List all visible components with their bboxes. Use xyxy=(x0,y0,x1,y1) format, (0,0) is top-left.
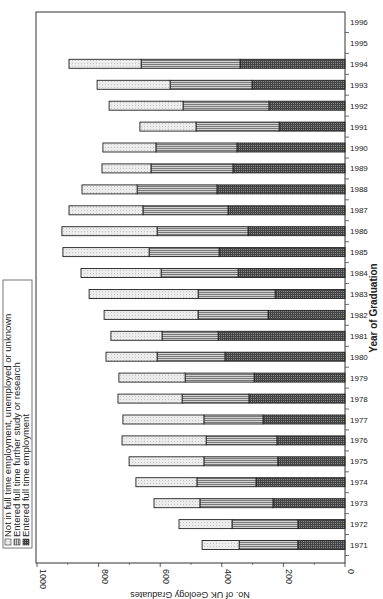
bar-segment-further-study-1994 xyxy=(141,59,240,68)
legend-swatch-not-employed xyxy=(5,539,11,545)
value-tick-label-1000: 1000 xyxy=(38,569,48,589)
year-label-1990: 1990 xyxy=(350,144,368,153)
bar-segment-further-study-1976 xyxy=(206,436,277,445)
legend-swatch-further-study xyxy=(14,539,20,545)
year-label-1984: 1984 xyxy=(350,269,368,278)
value-tick-label-800: 800 xyxy=(100,569,110,584)
bar-segment-employed-1992 xyxy=(269,101,345,110)
bar-segment-further-study-1990 xyxy=(156,143,237,152)
year-label-1986: 1986 xyxy=(350,227,368,236)
value-axis: 02004006008001000 xyxy=(37,563,356,589)
year-label-1995: 1995 xyxy=(350,39,368,48)
value-tick-label-200: 200 xyxy=(284,569,294,584)
bar-segment-employed-1974 xyxy=(256,478,345,487)
bar-segment-further-study-1972 xyxy=(232,520,298,529)
year-label-1971: 1971 xyxy=(350,541,368,550)
bar-segment-employed-1971 xyxy=(298,541,345,550)
bars-group xyxy=(62,59,345,549)
year-label-1989: 1989 xyxy=(350,164,368,173)
bar-segment-further-study-1977 xyxy=(204,415,263,424)
bar-segment-not-employed-1977 xyxy=(123,415,204,424)
bar-segment-not-employed-1984 xyxy=(81,269,161,278)
bar-segment-further-study-1989 xyxy=(151,164,233,173)
bar-segment-further-study-1992 xyxy=(183,101,269,110)
legend-item-employed: Entered full time employment xyxy=(20,414,31,545)
legend-label-employed: Entered full time employment xyxy=(20,414,31,537)
bar-segment-not-employed-1993 xyxy=(97,80,170,89)
bar-segment-further-study-1971 xyxy=(239,541,298,550)
year-label-1975: 1975 xyxy=(350,457,368,466)
bar-segment-not-employed-1985 xyxy=(63,248,149,257)
bar-segment-employed-1982 xyxy=(268,310,345,319)
bar-segment-not-employed-1991 xyxy=(140,122,196,131)
year-label-1996: 1996 xyxy=(350,18,368,27)
bar-segment-employed-1989 xyxy=(233,164,345,173)
value-tick-label-400: 400 xyxy=(223,569,233,584)
bar-segment-not-employed-1975 xyxy=(129,457,204,466)
bar-segment-not-employed-1979 xyxy=(119,373,185,382)
bar-segment-employed-1991 xyxy=(279,122,345,131)
bar-segment-employed-1979 xyxy=(254,373,345,382)
year-label-1991: 1991 xyxy=(350,123,368,132)
year-label-1977: 1977 xyxy=(350,416,368,425)
year-label-1981: 1981 xyxy=(350,332,368,341)
year-label-1987: 1987 xyxy=(350,206,368,215)
bar-segment-not-employed-1972 xyxy=(179,520,232,529)
bar-segment-employed-1987 xyxy=(228,206,345,215)
bar-segment-employed-1994 xyxy=(240,59,345,68)
bar-segment-not-employed-1978 xyxy=(118,394,182,403)
bar-segment-not-employed-1976 xyxy=(122,436,206,445)
bar-segment-employed-1983 xyxy=(275,290,345,299)
bar-segment-not-employed-1971 xyxy=(202,541,239,550)
bar-segment-not-employed-1982 xyxy=(104,310,198,319)
year-label-1988: 1988 xyxy=(350,185,368,194)
year-label-1994: 1994 xyxy=(350,60,368,69)
bar-segment-further-study-1980 xyxy=(157,352,225,361)
bar-segment-employed-1972 xyxy=(298,520,345,529)
bar-segment-not-employed-1992 xyxy=(109,101,183,110)
value-axis-title: No. of UK Geology Graduates xyxy=(130,590,250,599)
bar-segment-not-employed-1983 xyxy=(89,290,198,299)
year-label-1985: 1985 xyxy=(350,248,368,257)
value-tick-label-0: 0 xyxy=(346,569,356,574)
bar-segment-employed-1986 xyxy=(248,227,345,236)
bar-segment-not-employed-1989 xyxy=(102,164,151,173)
bar-segment-further-study-1981 xyxy=(162,331,218,340)
bar-segment-employed-1984 xyxy=(238,269,345,278)
year-axis: 1971197219731974197519761977197819791980… xyxy=(345,18,368,556)
legend-swatch-employed xyxy=(23,539,29,545)
bar-segment-employed-1975 xyxy=(278,457,345,466)
bar-segment-not-employed-1980 xyxy=(106,352,157,361)
bar-segment-not-employed-1986 xyxy=(62,227,157,236)
year-axis-title: Year of Graduation xyxy=(368,263,379,352)
year-label-1978: 1978 xyxy=(350,395,368,404)
bar-segment-further-study-1984 xyxy=(161,269,238,278)
bar-segment-employed-1985 xyxy=(219,248,345,257)
year-label-1982: 1982 xyxy=(350,311,368,320)
year-label-1979: 1979 xyxy=(350,374,368,383)
bar-segment-employed-1973 xyxy=(273,499,345,508)
year-label-1983: 1983 xyxy=(350,290,368,299)
bar-segment-further-study-1979 xyxy=(185,373,254,382)
bar-segment-further-study-1975 xyxy=(204,457,278,466)
year-label-1972: 1972 xyxy=(350,520,368,529)
bar-segment-further-study-1974 xyxy=(197,478,256,487)
legend: Not in full time employment, unemployed … xyxy=(2,280,32,548)
bar-segment-further-study-1993 xyxy=(170,80,252,89)
year-label-1974: 1974 xyxy=(350,478,368,487)
bar-segment-employed-1993 xyxy=(252,80,345,89)
bar-segment-not-employed-1974 xyxy=(136,478,197,487)
bar-segment-not-employed-1981 xyxy=(111,331,162,340)
bar-segment-employed-1980 xyxy=(225,352,345,361)
bar-segment-further-study-1983 xyxy=(198,290,275,299)
bar-segment-not-employed-1994 xyxy=(69,59,141,68)
bar-segment-further-study-1985 xyxy=(149,248,219,257)
year-label-1980: 1980 xyxy=(350,353,368,362)
bar-segment-employed-1988 xyxy=(217,185,345,194)
bar-segment-further-study-1987 xyxy=(143,206,228,215)
bar-segment-further-study-1982 xyxy=(198,310,268,319)
bar-segment-employed-1981 xyxy=(218,331,345,340)
bar-segment-not-employed-1990 xyxy=(103,143,156,152)
bar-segment-employed-1978 xyxy=(249,394,345,403)
bar-segment-further-study-1988 xyxy=(137,185,217,194)
